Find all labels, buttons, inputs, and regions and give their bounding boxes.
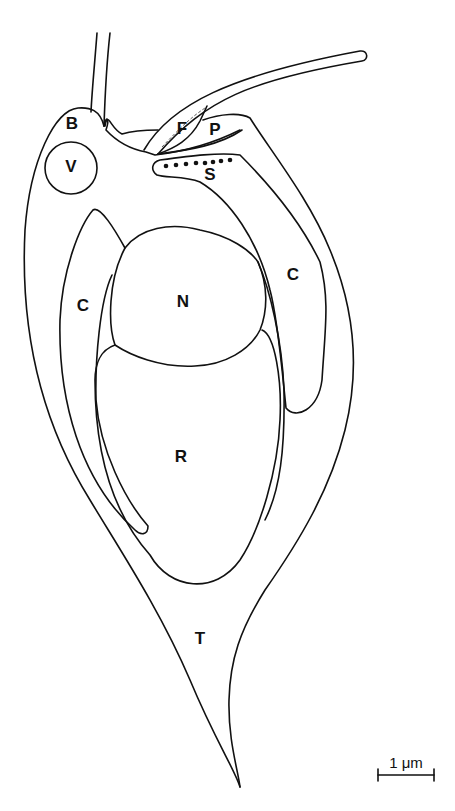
label-s: S (204, 165, 215, 184)
label-v: V (65, 157, 77, 176)
label-n: N (177, 292, 189, 311)
label-f: F (177, 119, 187, 138)
reservoir (95, 330, 280, 584)
label-p: P (209, 120, 220, 139)
label-t: T (195, 629, 206, 648)
label-c-left: C (77, 296, 89, 315)
labels: B V F P S C N C R T (65, 114, 299, 648)
pocket-line (158, 130, 242, 154)
scale-bar-label: 1 μm (389, 754, 423, 771)
cell-outline (24, 108, 353, 787)
label-c-right: C (287, 265, 299, 284)
scale-bar: 1 μm (378, 754, 434, 781)
label-b: B (66, 114, 78, 133)
anterior-flagellum (91, 33, 110, 126)
label-r: R (175, 447, 187, 466)
s-dots (164, 158, 233, 169)
left-c-region (60, 209, 148, 533)
long-flagellum (144, 51, 367, 154)
cell-diagram: B V F P S C N C R T 1 μm (0, 0, 455, 811)
